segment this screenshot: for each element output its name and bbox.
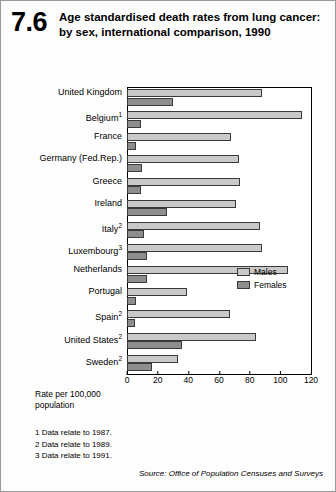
x-tick-label: 100 (273, 375, 287, 385)
footnote-3: 3 Data relate to 1991. (35, 450, 112, 462)
bar-males (127, 89, 262, 97)
bar-row: Ireland (127, 198, 312, 220)
x-tick-mark (311, 371, 312, 375)
bar-males (127, 111, 302, 119)
category-label: United States2 (1, 331, 127, 353)
figure-card: 7.6 Age standardised death rates from lu… (0, 0, 336, 492)
bar-females (127, 341, 182, 349)
bar-males (127, 333, 256, 341)
bar-males (127, 355, 178, 363)
bar-row: Belgium1 (127, 109, 312, 131)
legend-item-females: Females (237, 280, 287, 290)
bar-row: Luxembourg3 (127, 242, 312, 264)
footnotes: 1 Data relate to 1987. 2 Data relate to … (35, 427, 112, 462)
plot-area: United KingdomBelgium1FranceGermany (Fed… (1, 79, 336, 409)
x-tick-mark (127, 371, 128, 375)
x-tick-label: 60 (214, 375, 223, 385)
category-label: France (1, 131, 127, 153)
bar-females (127, 98, 173, 106)
bar-row: France (127, 131, 312, 153)
legend-swatch-males (237, 268, 250, 276)
x-tick-mark (188, 371, 189, 375)
bar-females (127, 252, 147, 260)
chart-legend: Males Females (237, 267, 287, 293)
category-label: Portugal (1, 286, 127, 308)
x-tick-label: 20 (153, 375, 162, 385)
bar-males (127, 200, 236, 208)
category-label: Greece (1, 176, 127, 198)
bar-females (127, 275, 147, 283)
bar-males (127, 178, 240, 186)
bar-row: United Kingdom (127, 87, 312, 109)
footnote-1: 1 Data relate to 1987. (35, 427, 112, 439)
category-label: Ireland (1, 198, 127, 220)
x-tick-label: 0 (125, 375, 130, 385)
category-label: Germany (Fed.Rep.) (1, 153, 127, 175)
bar-row: United States2 (127, 331, 312, 353)
bar-males (127, 310, 230, 318)
bar-row: Germany (Fed.Rep.) (127, 153, 312, 175)
figure-header: 7.6 Age standardised death rates from lu… (1, 1, 336, 79)
x-tick-label: 40 (184, 375, 193, 385)
figure-title: Age standardised death rates from lung c… (59, 10, 327, 40)
category-label: Netherlands (1, 264, 127, 286)
bar-row: Italy2 (127, 220, 312, 242)
bar-males (127, 155, 239, 163)
bar-females (127, 297, 136, 305)
category-label: Spain2 (1, 308, 127, 330)
bar-males (127, 244, 262, 252)
category-label: United Kingdom (1, 87, 127, 109)
x-tick-mark (280, 371, 281, 375)
x-tick-mark (158, 371, 159, 375)
bar-females (127, 363, 152, 371)
footnote-2: 2 Data relate to 1989. (35, 439, 112, 451)
bar-females (127, 319, 135, 327)
x-tick-mark (219, 371, 220, 375)
x-tick-label: 80 (245, 375, 254, 385)
category-label: Italy2 (1, 220, 127, 242)
bar-males (127, 133, 231, 141)
bar-females (127, 142, 136, 150)
x-axis-label: Rate per 100,000 population (35, 389, 130, 411)
x-tick-label: 120 (304, 375, 318, 385)
bar-row: Spain2 (127, 308, 312, 330)
legend-label-females: Females (254, 280, 287, 290)
bar-males (127, 222, 260, 230)
bar-males (127, 288, 187, 296)
x-axis-ticks: 020406080100120 (127, 375, 312, 389)
x-tick-mark (250, 371, 251, 375)
legend-item-males: Males (237, 267, 287, 277)
bar-row: Greece (127, 176, 312, 198)
category-label: Sweden2 (1, 353, 127, 375)
bar-females (127, 230, 144, 238)
bar-females (127, 186, 141, 194)
category-label: Belgium1 (1, 109, 127, 131)
legend-label-males: Males (254, 267, 277, 277)
bar-females (127, 164, 142, 172)
bar-females (127, 208, 167, 216)
legend-swatch-females (237, 281, 250, 289)
bar-rows: United KingdomBelgium1FranceGermany (Fed… (127, 87, 312, 375)
source-note: Source: Office of Population Censuses an… (139, 469, 323, 478)
category-label: Luxembourg3 (1, 242, 127, 264)
figure-number: 7.6 (11, 7, 47, 38)
bar-females (127, 120, 141, 128)
